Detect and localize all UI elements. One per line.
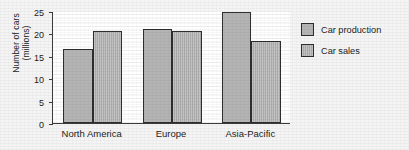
y-axis-tick: 10 [49, 79, 53, 80]
bar-europe-car-production [143, 29, 173, 123]
y-axis-tick: 15 [49, 57, 53, 58]
bar-asia-pacific-car-sales [251, 41, 281, 123]
y-axis-title: Number of cars (millions) [11, 0, 31, 93]
legend-swatch-icon-car-sales [301, 44, 314, 57]
y-axis-tick-label: 5 [39, 98, 44, 108]
y-axis-tick: 20 [49, 34, 53, 35]
y-axis-title-line-2: (millions) [21, 0, 31, 93]
legend-item-car-sales[interactable]: Car sales [301, 40, 381, 61]
plot-area: 0510152025 [52, 12, 290, 124]
plot-inner: 0510152025 [53, 12, 290, 123]
legend-label-car-production: Car production [321, 25, 381, 35]
y-axis-title-line-1: Number of cars [11, 0, 21, 93]
legend-label-car-sales: Car sales [321, 46, 360, 56]
chart-legend: Car production Car sales [301, 19, 381, 61]
x-axis-label-north-america: North America [62, 128, 122, 139]
y-axis-tick-label: 0 [39, 120, 44, 130]
legend-swatch-icon-car-production [301, 23, 314, 36]
bar-asia-pacific-car-production [222, 12, 252, 123]
bar-chart-figure: Number of cars (millions) 0510152025 Nor… [0, 0, 409, 150]
bar-north-america-car-production [63, 49, 93, 123]
x-axis-label-asia-pacific: Asia-Pacific [226, 128, 276, 139]
bar-north-america-car-sales [93, 31, 123, 123]
y-axis-tick-label: 15 [34, 53, 44, 63]
y-axis-tick: 25 [49, 12, 53, 13]
y-axis-tick-label: 10 [34, 75, 44, 85]
y-axis-tick-label: 20 [34, 30, 44, 40]
x-axis-label-europe: Europe [156, 128, 187, 139]
bar-europe-car-sales [172, 31, 202, 123]
y-axis-tick: 0 [49, 124, 53, 125]
y-axis-tick-label: 25 [34, 8, 44, 18]
y-axis-tick: 5 [49, 102, 53, 103]
legend-item-car-production[interactable]: Car production [301, 19, 381, 40]
